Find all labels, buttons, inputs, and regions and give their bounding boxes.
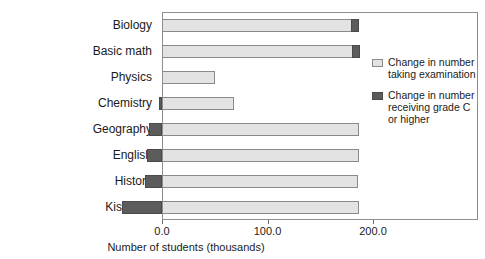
bar-grade-c-biology — [351, 19, 359, 32]
x-tick-2 — [373, 220, 374, 224]
x-tick-label-0: 0.0 — [154, 225, 169, 237]
x-tick-label-2: 200.0 — [359, 225, 387, 237]
bar-taking-exam-english — [162, 149, 359, 162]
bar-taking-exam-biology — [162, 19, 359, 32]
x-tick-1 — [268, 220, 269, 224]
bar-grade-c-geography — [149, 123, 162, 136]
bar-grade-c-chemistry — [159, 97, 162, 110]
x-tick-0 — [162, 220, 163, 224]
legend-label-1-line-2: or higher — [388, 113, 484, 125]
bar-taking-exam-chemistry — [162, 97, 234, 110]
legend-swatch-dark-icon — [372, 92, 383, 100]
bar-taking-exam-physics — [162, 71, 215, 84]
bar-grade-c-kiswahili — [122, 201, 162, 214]
legend-entry-0: Change in numbertaking examination — [372, 56, 484, 80]
bar-taking-exam-kiswahili — [162, 201, 359, 214]
chart-legend: Change in numbertaking examinationChange… — [372, 56, 484, 134]
legend-entry-1: Change in numberreceiving grade Cor high… — [372, 89, 484, 125]
x-tick-label-1: 100.0 — [254, 225, 282, 237]
legend-label-1-line-0: Change in number — [388, 89, 484, 101]
legend-label-0: Change in numbertaking examination — [388, 56, 484, 80]
bar-taking-exam-basic-math — [162, 45, 360, 58]
chart-title — [0, 0, 485, 9]
legend-swatch-light-icon — [372, 59, 383, 67]
chart-figure: BiologyBasic mathPhysicsChemistryGeograp… — [0, 0, 485, 259]
legend-label-0-line-1: taking examination — [388, 68, 484, 80]
bar-grade-c-history — [145, 175, 162, 188]
value-axis: Number of students (thousands) 0.0100.02… — [0, 220, 485, 259]
bar-grade-c-english — [147, 149, 162, 162]
legend-label-1-line-1: receiving grade C — [388, 101, 484, 113]
x-axis-title: Number of students (thousands) — [0, 241, 372, 253]
bar-taking-exam-history — [162, 175, 358, 188]
bar-taking-exam-geography — [162, 123, 359, 136]
legend-label-1: Change in numberreceiving grade Cor high… — [388, 89, 484, 125]
legend-label-0-line-0: Change in number — [388, 56, 484, 68]
bar-grade-c-basic-math — [352, 45, 360, 58]
